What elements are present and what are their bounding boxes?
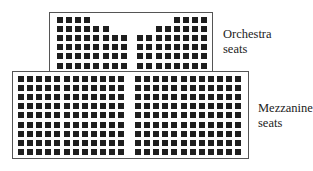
seat — [217, 149, 223, 155]
seat — [162, 131, 168, 137]
seat — [121, 35, 127, 41]
seat — [75, 17, 81, 23]
seat — [153, 122, 159, 128]
seat — [201, 44, 207, 50]
seat — [45, 76, 51, 82]
seat — [153, 94, 159, 100]
seat — [181, 131, 187, 137]
seat — [109, 94, 115, 100]
seat — [181, 85, 187, 91]
seat — [162, 76, 168, 82]
seat — [201, 53, 207, 59]
seat — [235, 140, 241, 146]
seat — [109, 76, 115, 82]
seat — [208, 76, 214, 82]
seat — [181, 94, 187, 100]
seat — [208, 103, 214, 109]
seat — [174, 44, 180, 50]
seat — [135, 149, 141, 155]
seat — [171, 85, 177, 91]
seat — [235, 103, 241, 109]
seat — [208, 140, 214, 146]
seat — [183, 17, 189, 23]
orchestra-label-line2: seats — [223, 42, 272, 57]
seat — [199, 94, 205, 100]
seat — [192, 17, 198, 23]
seat — [208, 112, 214, 118]
seat — [162, 112, 168, 118]
seat — [226, 94, 232, 100]
seat — [174, 35, 180, 41]
seat — [118, 122, 124, 128]
seat — [217, 131, 223, 137]
seat — [112, 35, 118, 41]
seat — [190, 85, 196, 91]
seat — [18, 94, 24, 100]
seat — [217, 112, 223, 118]
seat — [27, 103, 33, 109]
seat — [165, 63, 171, 69]
seat — [174, 26, 180, 32]
seat — [36, 122, 42, 128]
seat — [153, 76, 159, 82]
seat — [109, 140, 115, 146]
seat — [82, 76, 88, 82]
seat — [171, 94, 177, 100]
seat — [75, 53, 81, 59]
seat — [135, 140, 141, 146]
seat — [73, 140, 79, 146]
seat — [153, 103, 159, 109]
seat — [36, 103, 42, 109]
seat — [201, 17, 207, 23]
seat — [27, 76, 33, 82]
seat — [84, 35, 90, 41]
seat — [162, 149, 168, 155]
seat — [82, 94, 88, 100]
seat — [156, 26, 162, 32]
seat — [121, 53, 127, 59]
seat — [137, 63, 143, 69]
seat — [156, 44, 162, 50]
seat — [162, 103, 168, 109]
seat — [226, 140, 232, 146]
seat — [171, 131, 177, 137]
seat — [171, 103, 177, 109]
seat — [18, 149, 24, 155]
seat — [36, 131, 42, 137]
seat — [75, 44, 81, 50]
seat — [103, 26, 109, 32]
seat — [36, 76, 42, 82]
seat — [183, 26, 189, 32]
seat — [171, 149, 177, 155]
seat — [153, 131, 159, 137]
seat — [183, 53, 189, 59]
seat — [135, 103, 141, 109]
seat — [100, 131, 106, 137]
seat — [112, 63, 118, 69]
seat — [235, 76, 241, 82]
seat — [208, 85, 214, 91]
seat — [192, 44, 198, 50]
seat — [36, 85, 42, 91]
seat — [226, 149, 232, 155]
seat — [190, 112, 196, 118]
seat — [217, 85, 223, 91]
seat — [208, 131, 214, 137]
seat — [208, 149, 214, 155]
seat — [201, 26, 207, 32]
seat — [118, 94, 124, 100]
seat — [144, 76, 150, 82]
seat — [54, 103, 60, 109]
seat — [54, 149, 60, 155]
seat — [27, 94, 33, 100]
seat — [64, 112, 70, 118]
seat — [235, 149, 241, 155]
seat — [75, 35, 81, 41]
seat — [171, 112, 177, 118]
seat — [84, 17, 90, 23]
seat — [118, 85, 124, 91]
seat — [171, 122, 177, 128]
seat — [93, 35, 99, 41]
seat — [201, 35, 207, 41]
seat — [54, 122, 60, 128]
